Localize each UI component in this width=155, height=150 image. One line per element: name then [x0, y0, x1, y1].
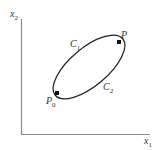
- y-axis-label: x2: [9, 8, 18, 22]
- point-p-label: P: [120, 29, 127, 40]
- x-axis-label: x1: [143, 135, 152, 149]
- point-p0-label: P0: [45, 95, 56, 109]
- curve-c1-label: C1: [70, 38, 81, 52]
- path-diagram: x2 x1 P P0 C1 C2: [0, 0, 155, 150]
- point-p0-marker: [55, 91, 59, 95]
- point-p-marker: [117, 40, 121, 44]
- curve-c2-label: C2: [103, 81, 114, 95]
